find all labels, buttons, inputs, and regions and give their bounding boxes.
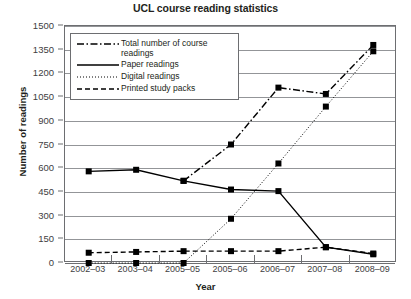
legend-line-swatch-icon <box>75 59 121 70</box>
data-point-marker <box>228 142 234 148</box>
x-axis-tick-mark <box>159 255 160 263</box>
y-axis-tick-mark <box>58 167 63 168</box>
legend-line-swatch-icon <box>75 71 121 82</box>
y-axis-tick-label: 900 <box>38 114 54 125</box>
legend-item-label: Digital readings <box>121 71 180 81</box>
legend-line-swatch-icon <box>75 38 121 49</box>
x-axis-tick-mark <box>206 255 207 263</box>
data-point-marker <box>181 178 187 184</box>
x-axis-tick-label: 2003–04 <box>118 264 153 274</box>
data-point-marker <box>86 250 92 256</box>
y-axis-tick-label: 1200 <box>33 67 54 78</box>
data-point-marker <box>228 216 234 222</box>
y-axis-tick-label: 150 <box>38 233 54 244</box>
chart-legend: Total number of course readingsPaper rea… <box>70 33 239 100</box>
data-point-marker <box>228 248 234 254</box>
x-axis-tick-mark <box>349 255 350 263</box>
data-point-marker <box>323 244 329 250</box>
series-line-1 <box>89 170 374 255</box>
data-point-marker <box>323 104 329 110</box>
x-axis-tick-mark <box>301 255 302 263</box>
y-axis-tick-label: 750 <box>38 138 54 149</box>
x-axis-tick-label: 2007–08 <box>307 264 342 274</box>
y-axis-tick-mark <box>58 119 63 120</box>
y-axis-tick-mark <box>58 72 63 73</box>
data-point-marker <box>228 187 234 193</box>
x-axis-tick-label: 2005–05 <box>165 264 200 274</box>
data-point-marker <box>275 85 281 91</box>
chart-title: UCL course reading statistics <box>0 2 411 14</box>
y-axis-tick-label: 450 <box>38 185 54 196</box>
data-point-marker <box>275 188 281 194</box>
legend-item-label: Printed study packs <box>121 83 195 93</box>
x-axis-tick-label: 2002–03 <box>70 264 105 274</box>
x-axis-tick-labels: 2002–032003–042005–052005–062006–072007–… <box>0 263 411 279</box>
legend-line-swatch-icon <box>75 83 121 94</box>
y-axis-tick-label: 1350 <box>33 43 54 54</box>
data-point-marker <box>275 248 281 254</box>
y-axis-tick-mark <box>58 214 63 215</box>
y-axis-tick-label: 300 <box>38 209 54 220</box>
chart-container: UCL course reading statistics Number of … <box>0 0 411 299</box>
x-axis-tick-label: 2006–07 <box>260 264 295 274</box>
data-point-marker <box>275 160 281 166</box>
y-axis-tick-labels: 01503004506007509001050120013501500 <box>0 25 60 262</box>
legend-item-label: Total number of course readings <box>121 38 207 58</box>
x-axis-title: Year <box>0 281 411 292</box>
y-axis-tick-mark <box>58 96 63 97</box>
data-point-marker <box>370 48 376 54</box>
legend-item: Digital readings <box>75 71 234 82</box>
data-point-marker <box>133 167 139 173</box>
y-axis-tick-mark <box>58 238 63 239</box>
data-point-marker <box>323 91 329 97</box>
legend-item-label: Paper readings <box>121 59 179 69</box>
y-axis-tick-mark <box>58 25 63 26</box>
y-axis-tick-label: 1050 <box>33 91 54 102</box>
y-axis-tick-label: 600 <box>38 162 54 173</box>
y-axis-tick-label: 1500 <box>33 20 54 31</box>
data-point-marker <box>133 249 139 255</box>
legend-item: Printed study packs <box>75 83 234 94</box>
y-axis-tick-mark <box>58 48 63 49</box>
x-axis-tick-mark <box>254 255 255 263</box>
y-axis-tick-mark <box>58 190 63 191</box>
y-axis-tick-mark <box>58 143 63 144</box>
x-axis-tick-label: 2008–09 <box>355 264 390 274</box>
data-point-marker <box>86 168 92 174</box>
data-point-marker <box>370 251 376 257</box>
legend-item: Paper readings <box>75 59 234 70</box>
x-axis-tick-label: 2005–06 <box>212 264 247 274</box>
data-point-marker <box>181 248 187 254</box>
legend-item: Total number of course readings <box>75 38 234 58</box>
x-axis-tick-mark <box>111 255 112 263</box>
data-point-marker <box>370 42 376 48</box>
